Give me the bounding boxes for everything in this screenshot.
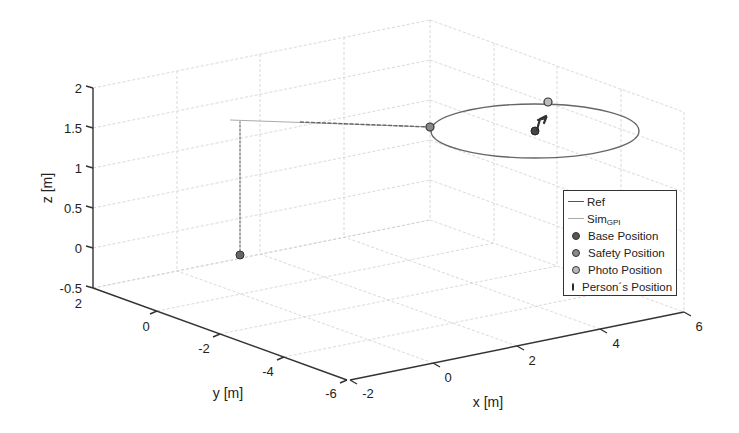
base-position-marker	[236, 251, 244, 259]
line-swatch-icon	[568, 218, 584, 219]
svg-text:2: 2	[75, 296, 82, 311]
dot-marker-icon	[572, 283, 574, 291]
svg-text:0: 0	[75, 241, 82, 256]
dot-marker-icon	[572, 232, 580, 240]
svg-text:0.5: 0.5	[64, 201, 82, 216]
svg-text:-0.5: -0.5	[60, 281, 82, 296]
photo-position-marker	[544, 98, 552, 106]
svg-text:1: 1	[75, 161, 82, 176]
svg-text:-6: -6	[325, 386, 337, 401]
legend-item-persons-position: Person´s Position	[568, 278, 672, 295]
svg-text:6: 6	[695, 319, 702, 334]
dot-marker-icon	[572, 249, 580, 257]
legend-item-sim-gpi: SimGPI	[568, 210, 672, 227]
legend: Ref SimGPI Base Position Safety Position…	[563, 190, 677, 296]
legend-item-safety-position: Safety Position	[568, 244, 672, 261]
z-axis-label: z [m]	[39, 173, 55, 203]
svg-text:4: 4	[612, 336, 619, 351]
svg-text:-4: -4	[262, 364, 274, 379]
y-axis-label: y [m]	[213, 385, 243, 401]
svg-text:1.5: 1.5	[64, 121, 82, 136]
camera-heading-arrow-icon	[537, 116, 546, 130]
svg-text:-2: -2	[198, 341, 210, 356]
legend-item-photo-position: Photo Position	[568, 261, 672, 278]
line-swatch-icon	[568, 201, 584, 202]
svg-text:2: 2	[528, 353, 535, 368]
legend-item-ref: Ref	[568, 193, 672, 210]
dot-marker-icon	[572, 266, 580, 274]
svg-text:0: 0	[444, 370, 451, 385]
svg-text:0: 0	[142, 319, 149, 334]
svg-text:2: 2	[75, 81, 82, 96]
y-tick-labels: 2 0 -2 -4 -6	[75, 296, 337, 401]
safety-position-marker	[426, 123, 434, 131]
x-axis-label: x [m]	[473, 394, 503, 410]
z-tick-labels: 2 1.5 1 0.5 0 -0.5	[60, 81, 82, 296]
svg-text:-2: -2	[362, 386, 374, 401]
legend-item-base-position: Base Position	[568, 227, 672, 244]
